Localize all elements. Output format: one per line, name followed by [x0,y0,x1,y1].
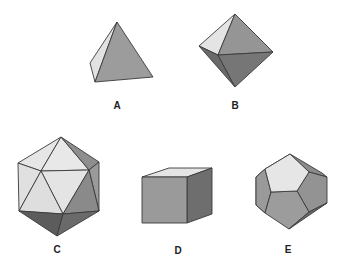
octahedron-shape [199,14,273,87]
platonic-solids-figure [0,0,349,264]
label-a: A [113,100,120,111]
label-e: E [285,244,292,255]
label-d: D [174,245,181,256]
label-b: B [231,100,238,111]
tetrahedron-shape [90,22,153,82]
label-c: C [53,244,60,255]
dodecahedron-shape [256,154,327,229]
icosahedron-shape [18,137,99,236]
cube-shape [142,168,212,223]
